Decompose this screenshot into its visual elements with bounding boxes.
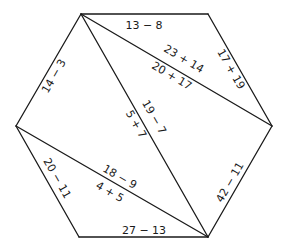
label-side-FA: 14 − 3 [39, 57, 69, 96]
hexagon-diagram: 13 − 8 17 + 19 42 − 11 27 − 13 20 − 11 1… [0, 0, 286, 251]
label-side-AB: 13 − 8 [125, 19, 162, 32]
side-EF [16, 126, 79, 237]
side-FA [16, 14, 81, 126]
diagonal-FD [16, 126, 208, 237]
diagonal-AC [81, 14, 272, 126]
label-side-DE: 27 − 13 [122, 224, 166, 237]
side-CD [208, 126, 272, 237]
